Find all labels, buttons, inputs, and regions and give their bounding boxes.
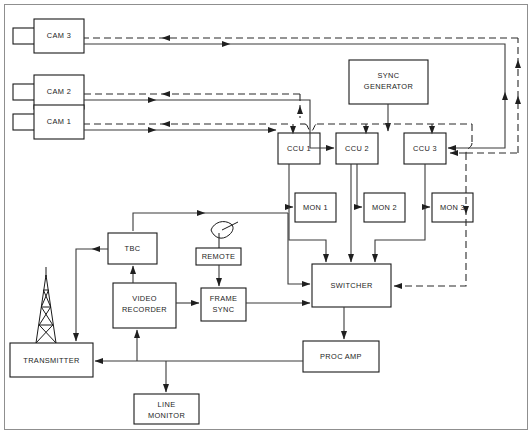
node-remote[interactable]: REMOTE <box>196 248 241 265</box>
node-sync-generator[interactable]: SYNC GENERATOR <box>349 60 428 104</box>
node-mon1[interactable]: MON 1 <box>295 193 336 222</box>
ccu2-label: CCU 2 <box>345 144 369 153</box>
sync-bus-hop <box>305 124 317 131</box>
sync-generator-label-line2: GENERATOR <box>364 82 413 91</box>
switcher-label: SWITCHER <box>330 281 372 290</box>
link-ccu1-to-mon1 <box>289 164 293 207</box>
node-ccu3[interactable]: CCU 3 <box>404 133 446 164</box>
node-switcher[interactable]: SWITCHER <box>312 264 391 307</box>
cam3-label: CAM 3 <box>47 31 71 40</box>
cam1-label: CAM 1 <box>47 117 71 126</box>
node-line-monitor[interactable]: LINE MONITOR <box>134 394 199 424</box>
link-cam3-to-ccu3 <box>84 44 505 148</box>
mon1-label: MON 1 <box>303 203 328 212</box>
cam2-lens-icon <box>13 84 35 100</box>
node-tbc[interactable]: TBC <box>108 233 157 264</box>
satellite-dish-icon <box>211 222 238 249</box>
link-tbc-top-rail <box>133 213 288 231</box>
node-video-recorder[interactable]: VIDEO RECORDER <box>113 283 176 328</box>
tbc-label: TBC <box>125 244 141 253</box>
mon3-label: MON 3 <box>440 203 465 212</box>
transmitter-label: TRANSMITTER <box>23 356 79 365</box>
transmitter-tower-icon <box>36 267 56 343</box>
node-cam3[interactable]: CAM 3 <box>13 19 84 53</box>
frame-sync-label-line2: SYNC <box>213 305 235 314</box>
mon2-label: MON 2 <box>372 203 397 212</box>
proc-amp-label: PROC AMP <box>320 352 362 361</box>
node-ccu2[interactable]: CCU 2 <box>336 133 378 164</box>
cam2-label: CAM 2 <box>47 87 71 96</box>
video-recorder-label-line2: RECORDER <box>122 305 167 314</box>
link-ccu3-to-mon3 <box>425 164 430 207</box>
sync-generator-label-line1: SYNC <box>378 71 400 80</box>
node-transmitter[interactable]: TRANSMITTER <box>10 343 93 377</box>
link-rail-to-switcher <box>288 213 310 284</box>
node-cam2[interactable]: CAM 2 <box>13 75 84 109</box>
line-monitor-label-line1: LINE <box>158 400 176 409</box>
node-frame-sync[interactable]: FRAME SYNC <box>201 288 246 321</box>
cam1-lens-icon <box>13 114 35 130</box>
ccu1-label: CCU 1 <box>287 144 311 153</box>
frame-sync-label-line1: FRAME <box>210 294 238 303</box>
video-recorder-label-line1: VIDEO <box>132 294 157 303</box>
node-mon2[interactable]: MON 2 <box>364 193 405 222</box>
node-cam1[interactable]: CAM 1 <box>13 105 84 139</box>
cam3-lens-icon <box>13 28 35 44</box>
line-monitor-label-line2: MONITOR <box>148 411 185 420</box>
node-mon3[interactable]: MON 3 <box>432 193 473 222</box>
remote-label: REMOTE <box>202 252 236 261</box>
link-ccu2-to-mon2 <box>357 164 362 207</box>
system-block-diagram: CAM 3 CAM 2 CAM 1 SYNC GENERATOR CCU 1 C… <box>0 0 532 434</box>
ccu3-label: CCU 3 <box>413 144 437 153</box>
link-tbc-to-transmitter <box>76 249 108 341</box>
node-proc-amp[interactable]: PROC AMP <box>303 341 379 372</box>
